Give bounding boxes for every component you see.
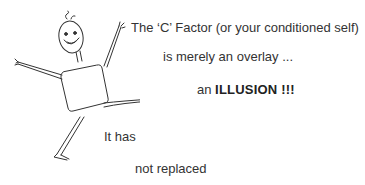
statement-overlay: is merely an overlay ... [163,49,293,64]
illusion-prefix: an [197,82,215,97]
statement-not-replaced: not replaced [135,161,207,176]
illusion-emphasis: ILLUSION !!! [215,82,295,97]
statement-it-has: It has [104,129,136,144]
slide: The ‘C’ Factor (or your conditioned self… [0,0,365,185]
statement-c-factor: The ‘C’ Factor (or your conditioned self… [131,20,359,35]
stick-figure-icon [0,0,140,185]
statement-illusion: an ILLUSION !!! [197,82,295,97]
